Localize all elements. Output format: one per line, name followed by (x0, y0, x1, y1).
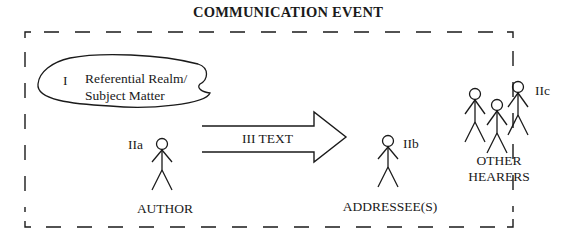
referential-realm-label-line1: Referential Realm/ (85, 71, 187, 87)
other-hearers-label-line1: OTHER (462, 153, 536, 169)
addressee-label: ADDRESSEE(S) (340, 199, 440, 215)
addressee-stick-figure (378, 136, 398, 188)
referential-realm-number: I (63, 73, 68, 89)
other-hearers-stick-figures (465, 82, 528, 154)
other-hearers-code: IIc (535, 83, 550, 99)
author-stick-figure (152, 139, 172, 191)
author-code: IIa (128, 137, 143, 153)
addressee-code: IIb (403, 136, 419, 152)
diagram-canvas (0, 0, 576, 246)
communication-event-boundary (25, 32, 513, 227)
other-hearers-label-line2: HEARERS (462, 169, 536, 185)
referential-realm-label-line2: Subject Matter (85, 88, 165, 104)
author-label: AUTHOR (120, 201, 210, 217)
text-arrow-label: III TEXT (242, 131, 293, 147)
